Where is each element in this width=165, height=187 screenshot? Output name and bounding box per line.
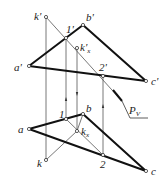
label-pv: PV xyxy=(129,105,140,118)
label-b: b xyxy=(86,103,92,114)
label-c-prime: c' xyxy=(151,76,158,87)
label-1: 1 xyxy=(59,109,65,120)
label-2-prime: 2' xyxy=(99,62,107,73)
label-k-prime: k' xyxy=(34,11,41,22)
label-2: 2 xyxy=(100,159,106,170)
projection-diagram: k' b' 1' k'x a' 2' c' PV 1 b a kx k 2 c xyxy=(0,0,165,187)
label-kx: kx xyxy=(81,126,89,139)
arrow-up-icon xyxy=(102,104,104,108)
line-k-front xyxy=(46,17,121,100)
label-k: k xyxy=(37,158,42,169)
label-a: a xyxy=(18,124,24,135)
projector-arrows xyxy=(65,92,104,108)
arrow-up-icon xyxy=(65,97,67,101)
label-b-prime: b' xyxy=(86,12,94,23)
triangle-top xyxy=(29,114,146,171)
arrow-down-icon xyxy=(76,92,78,96)
label-1-prime: 1' xyxy=(66,24,74,35)
pv-trace-end xyxy=(113,90,122,101)
label-a-prime: a' xyxy=(14,62,22,73)
diagram-canvas xyxy=(0,0,165,187)
label-c: c xyxy=(151,166,156,177)
label-kx-prime: k'x xyxy=(80,42,90,55)
